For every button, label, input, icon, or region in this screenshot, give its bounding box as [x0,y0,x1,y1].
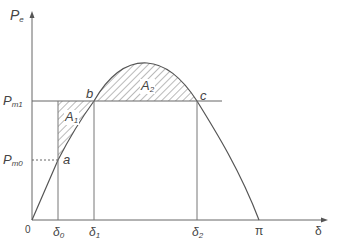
x-axis-label: δ [315,225,322,237]
point-c-label: c [200,89,207,102]
pm1-label: Pm1 [3,94,23,109]
delta2-label: δ2 [192,226,203,240]
point-a-label: a [63,153,70,166]
y-axis-label: Pe [10,8,24,24]
pm0-label: Pm0 [3,153,23,168]
pi-label: π [255,225,263,237]
origin-label: 0 [25,225,31,235]
point-b-label: b [86,87,93,100]
area-a1-label: A1 [64,110,79,125]
delta1-label: δ1 [89,226,100,240]
area-a2-label: A2 [140,79,155,94]
delta0-label: δ0 [53,226,64,240]
power-angle-diagram [0,0,337,247]
x-axis-arrow-icon [321,218,328,223]
y-axis-arrow-icon [30,11,35,18]
